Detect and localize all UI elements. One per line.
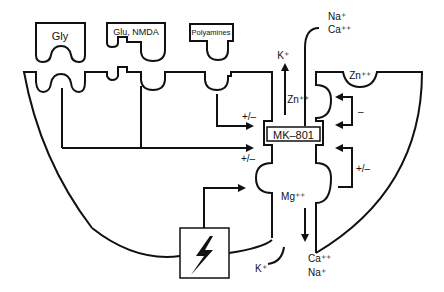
zn-effect-label: – xyxy=(358,106,364,117)
glu-nmda-label: Glu, NMDA xyxy=(113,27,159,37)
lightning-bolt-icon xyxy=(191,236,213,275)
nmda-receptor-diagram: Gly Glu, NMDA Polyamines MK–801 K⁺ Na⁺ C… xyxy=(0,0,444,292)
polyamines-label: Polyamines xyxy=(192,28,231,37)
zn-site-label: Zn⁺⁺ xyxy=(349,70,371,81)
glu-nmda-ligand: Glu, NMDA xyxy=(107,23,165,61)
k-out-label: K⁺ xyxy=(277,50,289,61)
zn-channel-label: Zn⁺⁺ xyxy=(287,94,309,105)
ca-out-label: Ca⁺⁺ xyxy=(308,253,331,264)
voltage-sensor xyxy=(180,188,244,278)
gly-label: Gly xyxy=(52,30,69,42)
polyamine-effect-label: +/– xyxy=(242,111,257,122)
mg-modulation-arrow: +/– xyxy=(337,148,371,187)
mk801-label: MK–801 xyxy=(273,129,314,141)
gly-glu-effect-label: +/– xyxy=(241,153,256,164)
gly-ligand: Gly xyxy=(36,23,85,62)
na-out-label: Na⁺ xyxy=(308,267,326,278)
zn-modulation-arrow: – xyxy=(337,97,364,125)
mk801-blocker: MK–801 xyxy=(267,127,320,141)
ca-in-label: Ca⁺⁺ xyxy=(328,24,351,35)
k-in-label: K⁺ xyxy=(255,263,267,274)
mg-effect-label: +/– xyxy=(356,163,371,174)
ion-flow-top: K⁺ Na⁺ Ca⁺⁺ xyxy=(277,11,351,126)
na-in-label: Na⁺ xyxy=(328,11,346,22)
polyamine-modulation-arrow: +/– xyxy=(217,94,257,126)
polyamines-ligand: Polyamines xyxy=(190,24,233,60)
mg-label: Mg⁺⁺ xyxy=(281,191,305,202)
